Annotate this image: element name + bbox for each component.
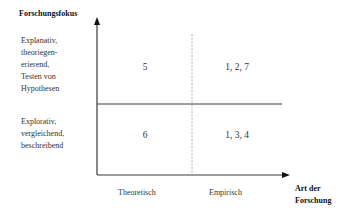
- y-axis-title: Forschungsfokus: [19, 9, 77, 18]
- x-axis-title: Art der Forschung: [295, 183, 331, 207]
- label-line: Explanativ,: [21, 35, 59, 47]
- label-line: vergleichend,: [21, 128, 64, 140]
- label-line: Explorativ,: [21, 116, 64, 128]
- y-category-bottom-label: Explorativ, vergleichend, beschreibend: [21, 116, 64, 152]
- y-category-top-label: Explanativ, theoriegen- erierend, Testen…: [21, 35, 59, 95]
- x-axis-title-line: Art der: [295, 183, 331, 195]
- cell-top-right: 1, 2, 7: [212, 62, 262, 72]
- x-category-theoretisch: Theoretisch: [118, 187, 156, 199]
- label-line: Testen von: [21, 71, 59, 83]
- cell-bottom-right: 1, 3, 4: [212, 130, 262, 140]
- x-axis-title-line: Forschung: [295, 195, 331, 207]
- label-line: erierend,: [21, 59, 59, 71]
- cell-bottom-left: 6: [130, 130, 160, 140]
- label-line: theoriegen-: [21, 47, 59, 59]
- y-axis-arrow-icon: [94, 17, 100, 25]
- x-category-empirisch: Empirisch: [209, 187, 242, 199]
- x-axis-arrow-icon: [282, 172, 290, 178]
- label-line: beschreibend: [21, 140, 64, 152]
- label-line: Hypothesen: [21, 83, 59, 95]
- cell-top-left: 5: [130, 62, 160, 72]
